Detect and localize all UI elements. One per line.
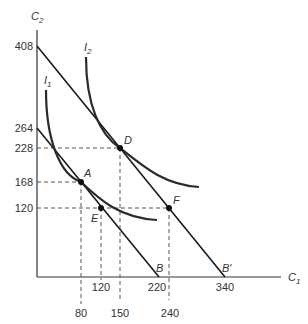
- x-tick-240: 240: [161, 307, 179, 319]
- point-A: [78, 179, 84, 185]
- label-I2: I2: [84, 41, 92, 56]
- x-tick-120: 120: [92, 281, 110, 293]
- intertemporal-choice-chart: C2 C1 A E D F B B′ I1 I2 408 264 228 168…: [0, 0, 308, 324]
- indifference-curve-I2: [86, 57, 199, 187]
- point-F: [166, 205, 172, 211]
- x-tick-80: 80: [75, 307, 87, 319]
- point-E: [98, 205, 104, 211]
- y-tick-264: 264: [15, 122, 33, 134]
- y-tick-168: 168: [15, 176, 33, 188]
- y-axis-label: C2: [31, 10, 44, 25]
- label-E: E: [91, 212, 99, 224]
- x-axis-label: C1: [288, 271, 300, 286]
- label-F: F: [173, 194, 181, 206]
- x-tick-340: 340: [216, 281, 234, 293]
- x-tick-150: 150: [111, 307, 129, 319]
- x-tick-220: 220: [148, 281, 166, 293]
- y-tick-120: 120: [15, 202, 33, 214]
- label-B: B: [156, 262, 163, 274]
- label-A: A: [83, 167, 91, 179]
- point-D: [117, 145, 123, 151]
- y-tick-408: 408: [15, 40, 33, 52]
- label-D: D: [124, 134, 132, 146]
- label-B-prime: B′: [222, 262, 232, 274]
- y-tick-228: 228: [15, 142, 33, 154]
- indifference-curve-I1: [46, 90, 157, 220]
- label-I1: I1: [44, 74, 52, 89]
